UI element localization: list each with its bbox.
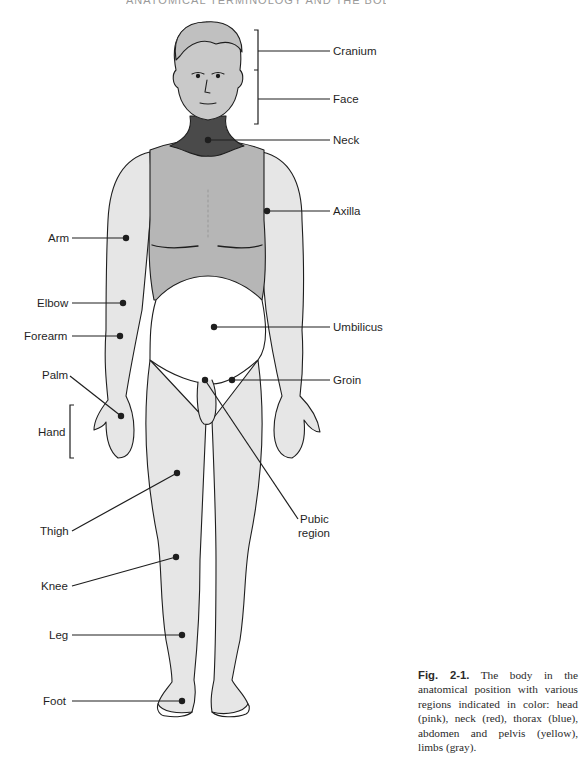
caption-text: The body in the anatomical position with… (418, 669, 578, 753)
label-elbow: Elbow (37, 297, 68, 310)
label-leg: Leg (49, 629, 68, 642)
label-cranium: Cranium (333, 45, 376, 58)
left-leg (146, 360, 206, 713)
right-leg (211, 360, 262, 714)
left-arm-figure-right (258, 152, 320, 458)
label-umbilicus: Umbilicus (333, 321, 383, 334)
label-axilla: Axilla (333, 205, 360, 218)
label-face: Face (333, 93, 359, 106)
figure-caption: Fig. 2-1. The body in the anatomical pos… (418, 668, 578, 754)
label-thigh: Thigh (40, 525, 69, 538)
label-hand: Hand (38, 426, 66, 439)
label-pubic-region-line2: region (298, 527, 330, 540)
figure-number: Fig. 2-1. (418, 669, 469, 681)
label-foot: Foot (43, 695, 66, 708)
abdomen-pelvis-region (150, 276, 265, 384)
label-arm: Arm (48, 232, 69, 245)
label-neck: Neck (333, 134, 359, 147)
label-groin: Groin (333, 374, 361, 387)
label-knee: Knee (41, 580, 68, 593)
label-forearm: Forearm (24, 330, 67, 343)
anatomical-figure (0, 0, 583, 759)
label-pubic-region-line1: Pubic (300, 513, 329, 526)
label-palm: Palm (42, 369, 68, 382)
